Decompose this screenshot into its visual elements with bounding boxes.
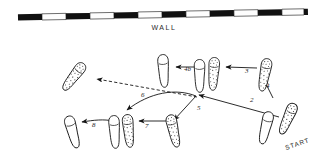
step-label-5: 5 bbox=[197, 104, 201, 112]
footprint-step7-left bbox=[108, 115, 121, 149]
footprint-step5-right bbox=[165, 114, 183, 148]
step-label-3: 3 bbox=[244, 67, 249, 75]
wall-segment-dark bbox=[258, 9, 282, 16]
step-label-8: 8 bbox=[92, 121, 96, 129]
step-label-4: 4 bbox=[266, 82, 270, 90]
diagram-canvas: WALL bbox=[0, 0, 324, 165]
footprint-step1-left bbox=[257, 111, 274, 145]
step-label-7: 7 bbox=[145, 122, 149, 130]
wall-bar bbox=[18, 9, 308, 21]
wall-segment-dark bbox=[162, 11, 186, 18]
step-label-6: 6 bbox=[141, 91, 145, 99]
wall-segment-dark bbox=[18, 14, 42, 21]
arrow-step2-to-step3 bbox=[226, 67, 257, 68]
footprint-step4-left bbox=[157, 54, 170, 88]
step-label-2: 2 bbox=[250, 96, 254, 104]
footwork-diagram: WALL bbox=[0, 0, 324, 165]
footprint-step2-right bbox=[257, 58, 273, 92]
footprint-step3-right bbox=[208, 57, 220, 90]
wall-segment-light bbox=[234, 10, 258, 17]
start-label: START bbox=[284, 136, 310, 150]
footprint-start-right bbox=[277, 102, 299, 136]
arrow-dashed-to-final bbox=[97, 79, 197, 97]
wall-segment-light bbox=[138, 12, 162, 19]
step-path-arrows bbox=[82, 67, 279, 122]
wall-segment-dark bbox=[210, 10, 234, 17]
wall-segment-group bbox=[18, 9, 308, 21]
arrow-step5-branch bbox=[174, 96, 196, 120]
wall-segment-light bbox=[90, 12, 114, 19]
footprint-final-left bbox=[60, 60, 88, 93]
footprint-step6-right bbox=[122, 114, 137, 148]
footprint-group bbox=[60, 54, 299, 149]
wall-segment-light bbox=[282, 9, 304, 16]
footprint-step3-left bbox=[194, 59, 206, 92]
step-label-4b: 4b bbox=[184, 65, 192, 73]
wall-segment-cap bbox=[304, 9, 308, 15]
wall-segment-light bbox=[186, 11, 210, 18]
footprint-step8-left bbox=[63, 115, 83, 149]
wall-label: WALL bbox=[151, 24, 176, 31]
wall-segment-light bbox=[42, 13, 66, 20]
wall-segment-dark bbox=[114, 12, 138, 19]
wall-segment-dark bbox=[66, 13, 90, 20]
